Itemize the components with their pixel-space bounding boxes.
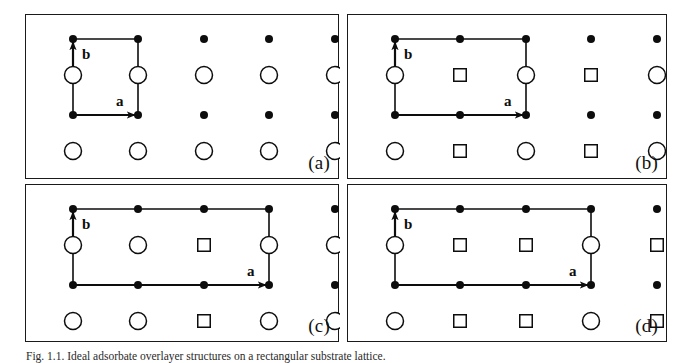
adsorbate-open-circle bbox=[130, 237, 147, 254]
lattice-panel-a: ba(a) bbox=[25, 14, 339, 179]
adsorbate-open-circle bbox=[196, 67, 213, 84]
adsorbate-open-circle bbox=[65, 237, 82, 254]
lattice-panel-d: ba(d) bbox=[347, 184, 667, 342]
substrate-dot bbox=[134, 281, 142, 289]
substrate-dot bbox=[134, 205, 142, 213]
adsorbate-open-square bbox=[520, 239, 533, 252]
adsorbate-open-circle bbox=[130, 67, 147, 84]
adsorbate-open-circle bbox=[387, 313, 404, 330]
substrate-dot bbox=[200, 35, 208, 43]
adsorbate-open-circle bbox=[130, 313, 147, 330]
vector-a-label-a: a bbox=[116, 93, 124, 109]
adsorbate-open-circle bbox=[327, 67, 341, 84]
adsorbate-open-circle bbox=[649, 67, 666, 84]
panel-label-c: (c) bbox=[308, 316, 330, 335]
panel-label-b: (b) bbox=[635, 153, 658, 172]
substrate-dot bbox=[134, 111, 142, 119]
substrate-dot bbox=[331, 35, 339, 43]
substrate-dot bbox=[69, 205, 77, 213]
adsorbate-open-circle bbox=[196, 143, 213, 160]
unit-cell-c bbox=[73, 209, 269, 285]
substrate-dot bbox=[587, 205, 595, 213]
substrate-dot bbox=[587, 111, 595, 119]
substrate-dot bbox=[200, 205, 208, 213]
adsorbate-open-circle bbox=[65, 313, 82, 330]
adsorbate-open-circle bbox=[583, 313, 600, 330]
lattice-drawing-b: ba bbox=[348, 15, 668, 180]
vector-a-label-d: a bbox=[569, 263, 577, 279]
adsorbate-open-circle bbox=[130, 143, 147, 160]
substrate-dot bbox=[265, 111, 273, 119]
substrate-dot bbox=[265, 205, 273, 213]
substrate-dot bbox=[522, 111, 530, 119]
substrate-dot bbox=[653, 281, 661, 289]
lattice-panel-b: ba(b) bbox=[347, 14, 667, 179]
adsorbate-open-circle bbox=[327, 237, 341, 254]
substrate-dot bbox=[653, 35, 661, 43]
adsorbate-open-square bbox=[198, 315, 211, 328]
substrate-dot bbox=[391, 281, 399, 289]
substrate-dot bbox=[456, 35, 464, 43]
substrate-dot bbox=[391, 111, 399, 119]
substrate-dot bbox=[522, 281, 530, 289]
substrate-dot bbox=[456, 205, 464, 213]
adsorbate-open-square bbox=[454, 145, 467, 158]
substrate-dot bbox=[456, 281, 464, 289]
adsorbate-open-square bbox=[520, 315, 533, 328]
substrate-dot bbox=[456, 111, 464, 119]
panel-label-a: (a) bbox=[308, 153, 330, 172]
adsorbate-open-circle bbox=[261, 237, 278, 254]
adsorbate-open-circle bbox=[65, 143, 82, 160]
substrate-dot bbox=[522, 35, 530, 43]
lattice-drawing-a: ba bbox=[26, 15, 340, 180]
figure-caption: Fig. 1.1. Ideal adsorbate overlayer stru… bbox=[26, 350, 666, 363]
adsorbate-open-circle bbox=[387, 237, 404, 254]
adsorbate-open-circle bbox=[261, 143, 278, 160]
adsorbate-open-circle bbox=[518, 143, 535, 160]
adsorbate-open-square bbox=[454, 315, 467, 328]
adsorbate-open-circle bbox=[387, 143, 404, 160]
substrate-dot bbox=[200, 111, 208, 119]
substrate-dot bbox=[587, 281, 595, 289]
substrate-dot bbox=[200, 281, 208, 289]
vector-b-label-c: b bbox=[82, 216, 90, 232]
vector-b-label-b: b bbox=[404, 46, 412, 62]
adsorbate-open-circle bbox=[261, 67, 278, 84]
figure-root: ba(a)ba(b)ba(c)ba(d)Fig. 1.1. Ideal adso… bbox=[0, 0, 678, 363]
vector-a-label-c: a bbox=[247, 263, 255, 279]
adsorbate-open-circle bbox=[261, 313, 278, 330]
panel-label-d: (d) bbox=[635, 316, 658, 335]
substrate-dot bbox=[265, 35, 273, 43]
adsorbate-open-square bbox=[585, 69, 598, 82]
vector-b-label-d: b bbox=[404, 216, 412, 232]
substrate-dot bbox=[331, 281, 339, 289]
adsorbate-open-square bbox=[651, 239, 664, 252]
substrate-dot bbox=[69, 111, 77, 119]
substrate-dot bbox=[653, 205, 661, 213]
substrate-dot bbox=[331, 111, 339, 119]
adsorbate-open-circle bbox=[65, 67, 82, 84]
substrate-dot bbox=[653, 111, 661, 119]
adsorbate-open-circle bbox=[387, 67, 404, 84]
unit-cell-d bbox=[395, 209, 591, 285]
substrate-dot bbox=[134, 35, 142, 43]
lattice-drawing-d: ba bbox=[348, 185, 668, 343]
substrate-dot bbox=[522, 205, 530, 213]
adsorbate-open-circle bbox=[583, 237, 600, 254]
adsorbate-open-square bbox=[585, 145, 598, 158]
adsorbate-open-square bbox=[198, 239, 211, 252]
lattice-panel-c: ba(c) bbox=[25, 184, 339, 342]
substrate-dot bbox=[69, 35, 77, 43]
substrate-dot bbox=[587, 35, 595, 43]
substrate-dot bbox=[69, 281, 77, 289]
adsorbate-open-square bbox=[454, 69, 467, 82]
substrate-dot bbox=[391, 35, 399, 43]
vector-b-label-a: b bbox=[82, 46, 90, 62]
adsorbate-open-circle bbox=[518, 67, 535, 84]
adsorbate-open-square bbox=[454, 239, 467, 252]
substrate-dot bbox=[265, 281, 273, 289]
substrate-dot bbox=[331, 205, 339, 213]
lattice-drawing-c: ba bbox=[26, 185, 340, 343]
substrate-dot bbox=[391, 205, 399, 213]
vector-a-label-b: a bbox=[504, 93, 512, 109]
